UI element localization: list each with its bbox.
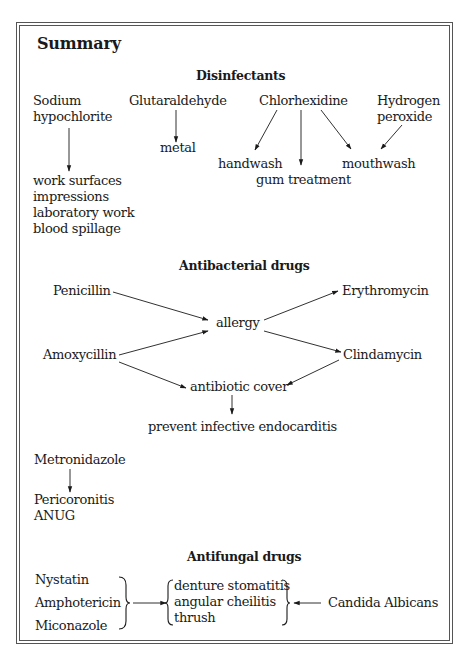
node-handwash: handwash [218, 156, 282, 172]
node-prevent-endocarditis: prevent infective endocarditis [148, 419, 337, 435]
node-penicillin: Penicillin [53, 283, 111, 299]
node-sodium-hypochlorite: Sodium hypochlorite [33, 93, 112, 125]
node-candida-albicans: Candida Albicans [328, 595, 438, 611]
condition-denture-stomatitis: denture stomatitis [174, 578, 290, 594]
node-allergy: allergy [216, 315, 260, 331]
summary-title: Summary [37, 34, 121, 53]
node-sodium-hypochlorite-uses: work surfaces impressions laboratory wor… [33, 173, 134, 237]
node-gum-treatment: gum treatment [256, 172, 351, 188]
node-erythromycin: Erythromycin [342, 283, 429, 299]
node-metal: metal [160, 140, 196, 156]
node-chlorhexidine: Chlorhexidine [259, 93, 348, 109]
drug-miconazole: Miconazole [35, 618, 107, 634]
node-mouthwash: mouthwash [342, 156, 415, 172]
disinfectants-heading: Disinfectants [196, 68, 285, 83]
condition-angular-cheilitis: angular cheilitis [174, 594, 276, 610]
node-clindamycin: Clindamycin [343, 347, 422, 363]
drug-nystatin: Nystatin [35, 572, 89, 588]
drug-amphotericin: Amphotericin [35, 595, 121, 611]
condition-thrush: thrush [174, 610, 215, 626]
node-hydrogen-peroxide: Hydrogen peroxide [377, 93, 440, 125]
node-amoxycillin: Amoxycillin [43, 347, 116, 363]
node-metronidazole-uses: Pericoronitis ANUG [34, 492, 114, 524]
antifungal-heading: Antifungal drugs [187, 549, 301, 564]
node-antibiotic-cover: antibiotic cover [190, 379, 288, 395]
antibacterial-heading: Antibacterial drugs [179, 258, 310, 273]
node-glutaraldehyde: Glutaraldehyde [129, 93, 227, 109]
node-metronidazole: Metronidazole [34, 452, 126, 468]
